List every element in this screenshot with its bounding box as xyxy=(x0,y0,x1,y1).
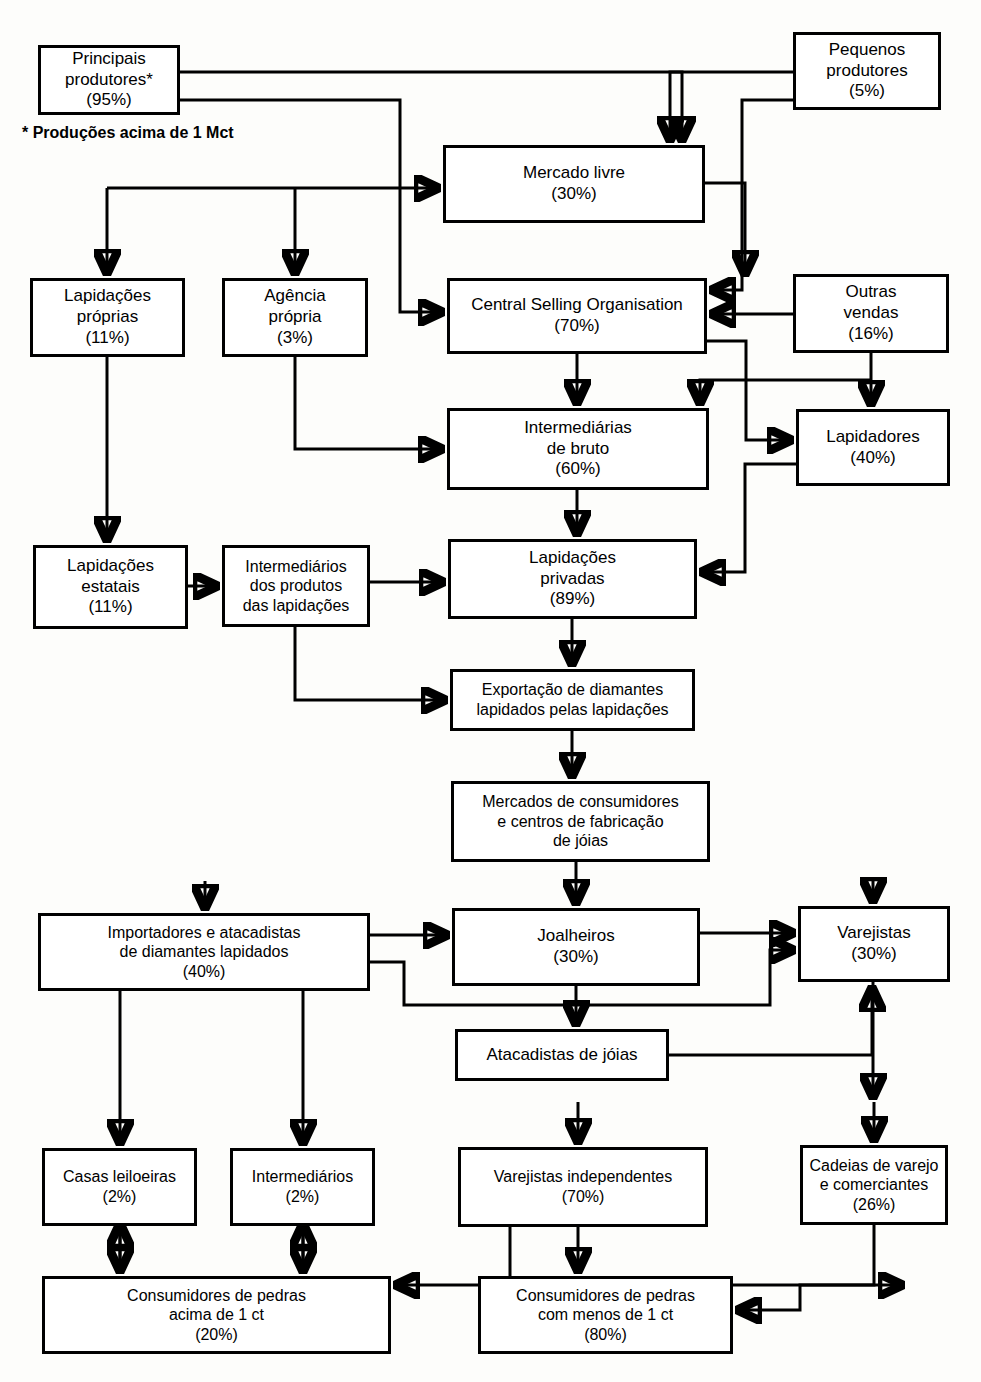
node-exportacao-diamantes[interactable]: Exportação de diamantes lapidados pelas … xyxy=(450,669,695,731)
node-atacadistas-de-joias[interactable]: Atacadistas de jóias xyxy=(455,1029,669,1081)
node-varejistas[interactable]: Varejistas (30%) xyxy=(798,906,950,982)
node-intermediarias-de-bruto[interactable]: Intermediárias de bruto (60%) xyxy=(447,408,709,490)
node-intermediarios[interactable]: Intermediários (2%) xyxy=(230,1148,375,1226)
node-consumidores-acima-1ct[interactable]: Consumidores de pedras acima de 1 ct (20… xyxy=(42,1276,391,1354)
node-intermediarios-dos-produtos[interactable]: Intermediários dos produtos das lapidaçõ… xyxy=(222,545,370,627)
node-principais-produtores[interactable]: Principais produtores* (95%) xyxy=(38,45,180,115)
node-lapidadores[interactable]: Lapidadores (40%) xyxy=(796,409,950,486)
node-consumidores-menos-1ct[interactable]: Consumidores de pedras com menos de 1 ct… xyxy=(478,1276,733,1354)
node-outras-vendas[interactable]: Outras vendas (16%) xyxy=(793,274,949,353)
node-varejistas-independentes[interactable]: Varejistas independentes (70%) xyxy=(458,1147,708,1227)
node-lapidacoes-estatais[interactable]: Lapidações estatais (11%) xyxy=(33,545,188,629)
node-casas-leiloeiras[interactable]: Casas leiloeiras (2%) xyxy=(42,1148,197,1226)
footnote-producoes: * Produções acima de 1 Mct xyxy=(22,124,234,142)
node-mercado-livre[interactable]: Mercado livre (30%) xyxy=(443,145,705,223)
flowchart-canvas: Principais produtores* (95%) * Produções… xyxy=(0,0,981,1382)
node-central-selling-organisation[interactable]: Central Selling Organisation (70%) xyxy=(447,278,707,354)
node-pequenos-produtores[interactable]: Pequenos produtores (5%) xyxy=(793,32,941,110)
node-importadores-atacadistas[interactable]: Importadores e atacadistas de diamantes … xyxy=(38,913,370,991)
node-lapidacoes-proprias[interactable]: Lapidações próprias (11%) xyxy=(30,278,185,357)
node-cadeias-de-varejo[interactable]: Cadeias de varejo e comerciantes (26%) xyxy=(800,1145,948,1225)
node-lapidacoes-privadas[interactable]: Lapidações privadas (89%) xyxy=(448,539,697,619)
node-joalheiros[interactable]: Joalheiros (30%) xyxy=(452,908,700,986)
node-agencia-propria[interactable]: Agência própria (3%) xyxy=(222,278,368,357)
node-mercados-consumidores[interactable]: Mercados de consumidores e centros de fa… xyxy=(451,781,710,862)
